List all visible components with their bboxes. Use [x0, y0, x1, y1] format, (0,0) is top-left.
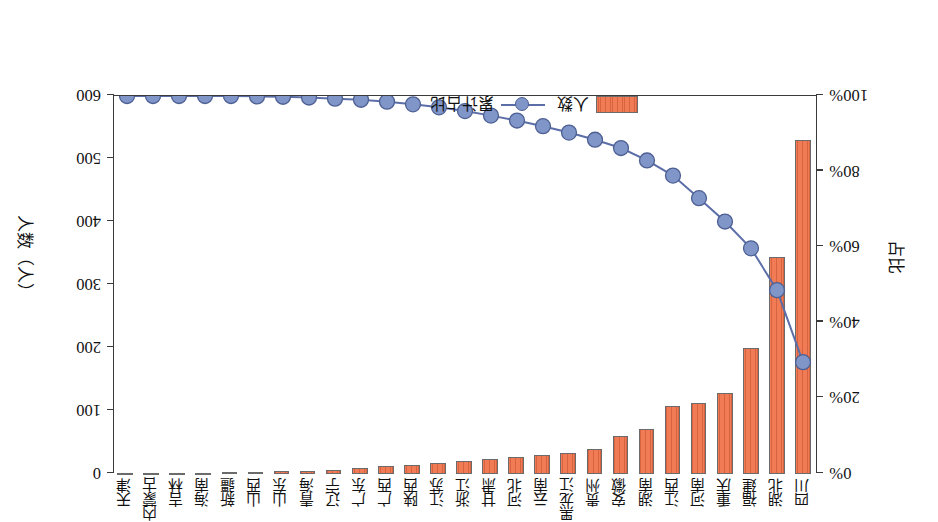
bar-column: [300, 96, 316, 474]
bar: [613, 436, 629, 474]
category-label: 四川: [795, 478, 810, 507]
category-label: 青海: [300, 478, 315, 507]
category-label: 内蒙古: [144, 478, 159, 522]
right-tick-label: 200: [76, 337, 101, 357]
category-label: 贵州: [587, 478, 602, 507]
left-tick: [816, 169, 823, 170]
bar-column: [482, 96, 498, 474]
right-tick-label: 600: [76, 85, 101, 105]
category-label: 甘肃: [483, 478, 498, 507]
bar-column: [456, 96, 472, 474]
category-label: 山西: [248, 478, 263, 507]
category-label: 河南: [691, 478, 706, 507]
bar-column: [378, 96, 394, 474]
bar: [795, 140, 811, 474]
category-label: 湖南: [639, 478, 654, 507]
bar: [300, 471, 316, 474]
category-label: 安徽: [613, 478, 628, 507]
bar: [639, 429, 655, 474]
bar-column: [795, 96, 811, 474]
bar-column: [613, 96, 629, 474]
left-tick: [816, 472, 823, 473]
right-tick-label: 0: [93, 463, 101, 483]
bar-column: [195, 96, 211, 474]
right-tick: [107, 157, 114, 158]
bar: [691, 403, 707, 474]
bar-column: [639, 96, 655, 474]
category-label: 广东: [352, 478, 367, 507]
left-tick-label: 20%: [829, 387, 860, 407]
bar-series-layer: [114, 96, 816, 473]
bar-column: [169, 96, 185, 474]
bar-column: [534, 96, 550, 474]
category-label: 江西: [665, 478, 680, 507]
bar-column: [248, 96, 264, 474]
right-tick: [107, 472, 114, 473]
bar-column: [769, 96, 785, 474]
bar-column: [143, 96, 159, 474]
bar: [326, 470, 342, 474]
right-tick: [107, 283, 114, 284]
left-tick-label: 60%: [829, 236, 860, 256]
right-tick-label: 400: [76, 211, 101, 231]
bar: [404, 465, 420, 474]
bar: [274, 471, 290, 474]
right-tick-label: 300: [76, 274, 101, 294]
bar: [534, 455, 550, 474]
bar-column: [508, 96, 524, 474]
right-tick: [107, 94, 114, 95]
category-label: 新疆: [222, 478, 237, 507]
bar-column: [404, 96, 420, 474]
bar-column: [326, 96, 342, 474]
category-label: 广西: [378, 478, 393, 507]
left-tick-label: 80%: [829, 161, 860, 181]
bar-swatch-icon: [596, 97, 638, 114]
right-tick: [107, 346, 114, 347]
bar: [169, 473, 185, 475]
bar-column: [717, 96, 733, 474]
bar-column: [587, 96, 603, 474]
left-tick: [816, 245, 823, 246]
bar: [222, 472, 238, 474]
bar: [717, 393, 733, 474]
bar-column: [665, 96, 681, 474]
category-label: 河北: [509, 478, 524, 507]
category-label: 山东: [274, 478, 289, 507]
bar: [508, 457, 524, 474]
left-tick-label: 100%: [829, 85, 868, 105]
right-tick-label: 100: [76, 400, 101, 420]
category-label: 陕西: [404, 478, 419, 507]
category-label: 云南: [535, 478, 550, 507]
bar: [482, 459, 498, 474]
bar-column: [560, 96, 576, 474]
left-tick: [816, 94, 823, 95]
bar: [248, 472, 264, 474]
category-label: 辽宁: [326, 478, 341, 507]
left-tick: [816, 396, 823, 397]
bar: [587, 449, 603, 474]
bar-column: [430, 96, 446, 474]
bar-column: [352, 96, 368, 474]
category-label: 吉林: [170, 478, 185, 507]
left-tick: [816, 320, 823, 321]
bar: [665, 406, 681, 474]
bar: [456, 461, 472, 474]
chart-legend: 人数 累计占比: [430, 93, 638, 117]
bar: [430, 463, 446, 474]
bar: [378, 466, 394, 474]
bar: [769, 257, 785, 474]
left-tick-label: 40%: [829, 312, 860, 332]
right-tick: [107, 409, 114, 410]
bar-column: [274, 96, 290, 474]
bar: [743, 348, 759, 474]
category-label: 海南: [196, 478, 211, 507]
bar-column: [117, 96, 133, 474]
category-label: 福建: [743, 478, 758, 507]
legend-label-cumulative: 累计占比: [430, 93, 494, 117]
bar-column: [743, 96, 759, 474]
right-axis-title: 人数（人）: [14, 215, 39, 300]
plot-area: 0%20%40%60%80%100% 0100200300400500600 四…: [113, 95, 817, 473]
left-tick-label: 0%: [829, 463, 851, 483]
legend-label-count: 人数: [557, 93, 589, 117]
